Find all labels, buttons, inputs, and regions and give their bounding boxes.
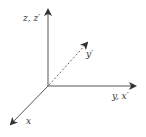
y-axis-label: y, x′ xyxy=(111,91,129,101)
y-prime-axis-label: y′ xyxy=(85,49,93,59)
coordinate-axes-diagram: z, z′ y, x′ x y′ xyxy=(0,0,146,137)
y-prime-axis xyxy=(49,43,87,85)
x-axis-label: x xyxy=(26,116,31,126)
z-axis-label: z, z′ xyxy=(22,13,40,23)
